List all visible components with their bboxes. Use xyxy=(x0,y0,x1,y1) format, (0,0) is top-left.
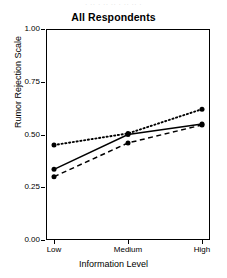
y-tick-mark xyxy=(41,29,45,30)
data-point-marker xyxy=(200,107,205,112)
y-axis-title-wrapper: Rumor Rejection Scale xyxy=(11,12,25,152)
chart-figure: · ·· · ·· ·· · ·· ·· · All Respondents 0… xyxy=(0,0,227,278)
series-line xyxy=(54,124,202,169)
x-tick-mark xyxy=(54,240,55,244)
y-tick-label: 0.25 xyxy=(10,183,40,191)
y-tick-mark xyxy=(41,240,45,241)
x-tick-label: Low xyxy=(47,245,62,254)
y-tick-mark xyxy=(41,82,45,83)
series-solid xyxy=(52,121,205,171)
y-tick-label: 0.00 xyxy=(10,236,40,244)
clipped-text-artifact: · ·· · ·· ·· · ·· ·· · xyxy=(0,0,227,10)
data-point-marker xyxy=(52,143,57,148)
plot-area xyxy=(46,29,210,240)
data-point-marker xyxy=(126,132,131,137)
x-tick-label: High xyxy=(194,245,210,254)
y-tick-mark xyxy=(41,187,45,188)
x-axis-title: Information Level xyxy=(0,259,227,269)
y-tick-mark xyxy=(41,135,45,136)
y-axis-title: Rumor Rejection Scale xyxy=(11,12,25,152)
x-axis-tick-labels: LowMediumHigh xyxy=(0,245,227,257)
data-point-marker xyxy=(52,174,57,179)
data-point-marker xyxy=(52,167,57,172)
x-tick-mark xyxy=(128,240,129,244)
x-tick-label: Medium xyxy=(114,245,142,254)
chart-title: All Respondents xyxy=(0,11,227,23)
data-point-marker xyxy=(126,140,131,145)
data-point-marker xyxy=(200,123,205,128)
x-tick-mark xyxy=(202,240,203,244)
